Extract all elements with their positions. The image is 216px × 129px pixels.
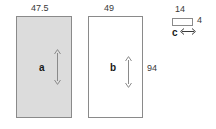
panel-b-height-label: 94 — [147, 64, 157, 73]
panel-a-label: a — [39, 63, 45, 73]
panel-c-width-label: 14 — [175, 5, 185, 14]
panel-a-width-label: 47.5 — [31, 4, 49, 13]
diagram-canvas: 47.5 a 49 b 94 14 4 c — [0, 0, 216, 129]
panel-c-rectangle — [172, 18, 193, 26]
panel-b-vertical-arrow-icon — [124, 56, 133, 88]
panel-b-width-label: 49 — [104, 4, 114, 13]
panel-a-vertical-arrow-icon — [53, 49, 62, 85]
panel-c-label: c — [172, 28, 178, 38]
panel-c-height-label: 4 — [197, 16, 202, 25]
panel-b-label: b — [110, 63, 116, 73]
panel-c-horizontal-arrow-icon — [180, 27, 196, 36]
